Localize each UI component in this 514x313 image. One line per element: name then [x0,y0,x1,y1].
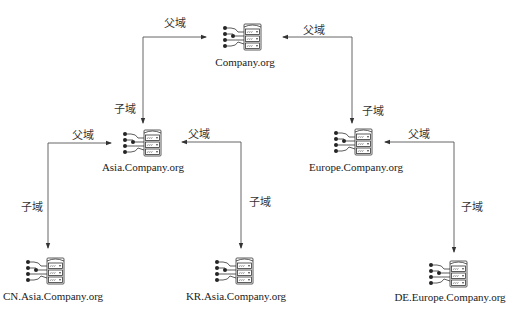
edge-label-child: 子域 [21,198,43,214]
edge-label-parent: 父域 [188,125,210,141]
node-label-cn: CN.Asia.Company.org [3,290,103,302]
edge-de-europe [385,142,454,252]
edge-label-child: 子域 [249,193,271,209]
edge-label-parent: 父域 [72,126,94,142]
node-label-europe: Europe.Company.org [309,161,403,173]
edge-asia-root [143,37,206,123]
node-label-de: DE.Europe.Company.org [394,291,505,303]
edge-label-child: 子域 [114,100,136,116]
server-network-icon [222,22,264,52]
edge-label-parent: 父域 [408,125,430,141]
node-label-company-org: Company.org [215,56,274,68]
node-label-kr: KR.Asia.Company.org [186,290,286,302]
server-network-icon [214,256,256,286]
server-network-icon [25,256,67,286]
edge-label-child: 子域 [362,102,384,118]
edge-kr-asia [182,142,241,248]
edge-label-parent: 父域 [303,21,325,37]
server-network-icon [122,128,164,158]
server-network-icon [333,127,375,157]
edge-label-parent: 父域 [164,14,186,30]
edge-europe-root [283,37,352,123]
server-network-icon [428,259,470,289]
edge-label-child: 子域 [461,198,483,214]
edge-cn-asia [48,143,111,248]
domain-tree-diagram: 父域 子域 父域 子域 父域 子域 父域 子域 父域 子域 Company.or… [0,0,514,313]
node-label-asia: Asia.Company.org [102,161,184,173]
